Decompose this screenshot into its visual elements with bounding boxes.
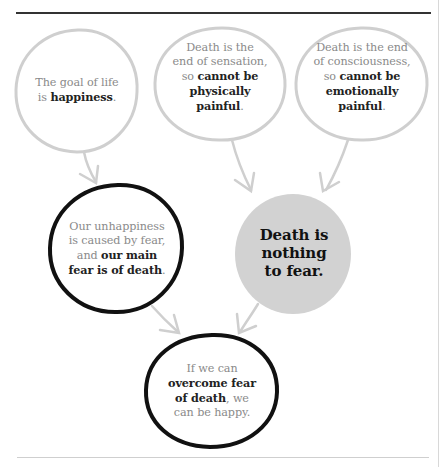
node-text-punct: . (240, 100, 243, 113)
node-text-emphasis: physically (189, 84, 250, 98)
node-goal-of-life: The goal of life is happiness. (20, 76, 134, 105)
node-text-line: and (77, 249, 98, 262)
node-text-emphasis: painful (196, 99, 240, 113)
node-text-punct: . (113, 91, 116, 104)
node-text-line: of consciousness, (313, 55, 410, 68)
node-text-emphasis: of death (175, 391, 226, 405)
node-text-emphasis: cannot be (197, 69, 258, 83)
node-text-line: is (38, 91, 47, 104)
node-overcome-fear: If we can overcome fear of death, we can… (148, 362, 276, 420)
node-text-line: end of sensation, (173, 55, 268, 68)
node-text-punct: . (382, 100, 385, 113)
node-text-emphasis: cannot be (339, 69, 400, 83)
node-nothing-to-fear: Death is nothing to fear. (238, 226, 350, 280)
node-text-line: can be happy. (174, 406, 250, 419)
node-text-emphasis: emotionally (326, 84, 399, 98)
node-text-emphasis: overcome fear (168, 376, 256, 390)
node-unhappiness-fear: Our unhappiness is caused by fear, and o… (52, 220, 182, 278)
node-end-of-sensation: Death is the end of sensation, so cannot… (157, 41, 283, 114)
arrow-consciousness-to-conclusion (320, 140, 348, 191)
node-text-line: If we can (186, 362, 237, 375)
node-text-punct: . (162, 264, 165, 277)
node-text-line: so (182, 70, 194, 83)
arrow-sensation-to-conclusion (232, 140, 254, 191)
node-text-line: The goal of life (35, 76, 118, 89)
node-text-line: to fear. (265, 262, 324, 280)
arrow-unhappiness-to-overcome (152, 306, 179, 333)
node-end-of-consciousness: Death is the end of consciousness, so ca… (298, 41, 426, 114)
node-text-line: Our unhappiness (69, 220, 164, 233)
node-text-line: Death is the end (316, 41, 408, 54)
node-text-line: Death is (260, 226, 329, 244)
node-text-line: Death is the (186, 41, 254, 54)
node-text-emphasis: our main (101, 248, 157, 262)
node-text-line: so (324, 70, 336, 83)
node-text-emphasis: fear is of death (69, 263, 162, 277)
arrow-goal-to-unhappiness (80, 152, 98, 183)
node-text-emphasis: happiness (50, 90, 112, 104)
node-text-line: nothing (261, 244, 326, 262)
node-text-line: is caused by fear, (69, 234, 165, 247)
arrow-conclusion-to-overcome (237, 304, 258, 333)
node-text-emphasis: painful (338, 99, 382, 113)
node-text-line: , we (226, 392, 249, 405)
